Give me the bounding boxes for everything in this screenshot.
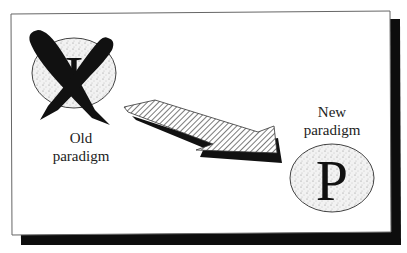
new-paradigm-label-line1: New — [292, 103, 372, 121]
new-paradigm-glyph: P — [316, 148, 348, 213]
new-paradigm-node: P — [290, 144, 374, 213]
old-paradigm-label-line2: paradigm — [42, 147, 120, 165]
new-paradigm-label-line2: paradigm — [292, 121, 372, 139]
new-paradigm-label: New paradigm — [292, 103, 372, 139]
old-paradigm-label: Old paradigm — [42, 129, 120, 165]
old-paradigm-label-line1: Old — [42, 129, 120, 147]
